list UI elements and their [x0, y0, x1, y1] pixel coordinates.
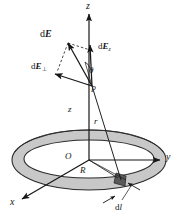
vector-dEz-label: dEz [98, 42, 111, 52]
radius-R-label: R [80, 166, 86, 175]
origin-label: O [65, 152, 72, 161]
z-axis-label: z [86, 1, 90, 11]
dl-arrow-left [103, 196, 115, 203]
dEz-subscript: z [109, 46, 111, 52]
theta-label: θ [89, 66, 93, 75]
ring-electric-field-figure: z y x O P z r R θ dE dEz dE⊥ dl [0, 0, 178, 221]
charge-element-dl-label: dl [115, 203, 122, 212]
vector-dEperp-label: dE⊥ [31, 62, 47, 72]
figure-vector-graphics [0, 0, 178, 221]
distance-z-label: z [68, 105, 72, 114]
dl-leader-line [122, 186, 131, 200]
y-axis-label: y [166, 152, 170, 162]
x-axis-label: x [10, 197, 14, 207]
dE-symbol: E [45, 28, 52, 39]
point-P-label: P [91, 86, 96, 94]
distance-r-label: r [94, 117, 98, 126]
parallelogram-dash-left [57, 43, 68, 72]
dl-symbol: l [120, 202, 123, 212]
vector-dE-label: dE [40, 29, 52, 39]
dEperp-subscript: ⊥ [42, 65, 47, 72]
